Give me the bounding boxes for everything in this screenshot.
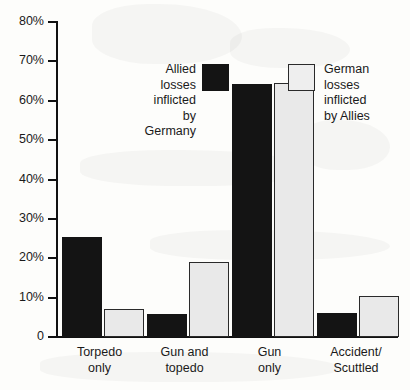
category-label-line: only [57, 361, 142, 377]
category-label-line: only [227, 361, 312, 377]
x-axis-category-label: Torpedo only [57, 345, 142, 376]
grouped-bar-chart: 80%70%60%50%40%30%20%10%0 Torpedo only G… [0, 0, 410, 390]
y-axis-tick-label: 50% [0, 133, 44, 145]
legend-label-line: by Allies [324, 109, 404, 125]
legend-label-line: German [324, 62, 404, 78]
y-axis-tick-label: 60% [0, 94, 44, 106]
y-axis-tick [48, 139, 57, 141]
bar [104, 309, 144, 337]
y-axis-tick-label: 80% [0, 15, 44, 27]
y-axis-tick [48, 336, 57, 338]
legend-label-line: inflicted [324, 93, 404, 109]
legend-label-line: losses [324, 78, 404, 94]
legend-entry-allied: Allied losses inflicted by Germany [130, 62, 196, 140]
bar [359, 296, 399, 337]
y-axis-tick-label: 30% [0, 212, 44, 224]
bar [62, 237, 102, 337]
x-axis-category-label: Gun only [227, 345, 312, 376]
y-axis-tick [48, 179, 57, 181]
legend-entry-german: German losses inflicted by Allies [324, 62, 404, 124]
bar [147, 314, 187, 337]
category-label-line: Gun and [142, 345, 227, 361]
bar [232, 84, 272, 337]
bar [189, 262, 229, 337]
y-axis-tick-label: 70% [0, 54, 44, 66]
category-label-line: Gun [227, 345, 312, 361]
bar [317, 313, 357, 337]
y-axis-tick [48, 257, 57, 259]
category-label-line: Scuttled [312, 361, 400, 377]
y-axis-tick [48, 21, 57, 23]
legend-label-line: by Germany [130, 109, 196, 140]
y-axis-tick [48, 100, 57, 102]
x-axis-category-label: Accident/ Scuttled [312, 345, 400, 376]
y-axis-tick-label: 0 [0, 330, 44, 342]
bar [274, 83, 314, 337]
legend-swatch-german [288, 64, 315, 91]
y-axis-tick [48, 60, 57, 62]
legend-label-line: inflicted [130, 93, 196, 109]
category-label-line: Accident/ [312, 345, 400, 361]
category-label-line: topedo [142, 361, 227, 377]
category-label-line: Torpedo [57, 345, 142, 361]
y-axis-tick [48, 297, 57, 299]
y-axis-tick-label: 20% [0, 251, 44, 263]
x-axis-category-label: Gun and topedo [142, 345, 227, 376]
y-axis-tick-label: 40% [0, 173, 44, 185]
y-axis-tick-label: 10% [0, 291, 44, 303]
legend-swatch-allied [202, 64, 229, 91]
legend-label-line: Allied [130, 62, 196, 78]
legend-label-line: losses [130, 78, 196, 94]
y-axis-tick [48, 218, 57, 220]
